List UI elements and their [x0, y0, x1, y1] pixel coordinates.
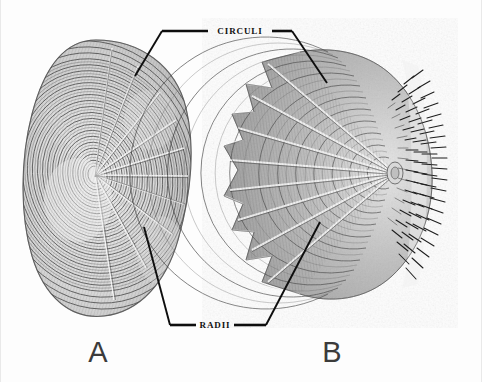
- scale-a-highlight: [44, 158, 112, 242]
- figure-letter-a: A: [88, 336, 108, 368]
- illustration-plate: CIRCULI RADII A B: [0, 0, 482, 382]
- plate-canvas: CIRCULI RADII A B: [0, 0, 482, 382]
- label-radii: RADII: [199, 320, 230, 330]
- label-circuli: CIRCULI: [217, 26, 262, 36]
- scale-b-focus: [387, 162, 403, 184]
- scale-a-highlight-2: [124, 90, 176, 150]
- figure-letter-b: B: [322, 336, 341, 368]
